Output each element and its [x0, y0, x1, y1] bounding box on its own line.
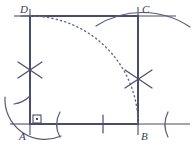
vertex-label-A: A — [18, 130, 26, 142]
dotted-quarter-arc-icon — [30, 16, 138, 124]
construction-svg: D C A B — [0, 0, 192, 146]
vertex-label-C: C — [142, 3, 150, 15]
right-angle-marker-dot — [36, 118, 38, 120]
extended-lines-group — [10, 7, 190, 135]
arc-from-A-medium — [14, 96, 30, 104]
square-abcd-group — [30, 16, 138, 124]
geometry-figure: D C A B — [0, 0, 192, 146]
intersection-crosses-group — [18, 62, 152, 88]
vertex-label-D: D — [19, 3, 28, 15]
vertex-label-B: B — [141, 130, 148, 142]
